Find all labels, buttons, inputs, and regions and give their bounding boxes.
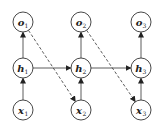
- node-o1: o1: [13, 12, 33, 32]
- node-subscript: 1: [25, 110, 29, 117]
- node-label: h: [17, 63, 24, 74]
- node-subscript: 3: [143, 68, 147, 75]
- node-h2: h2: [71, 58, 91, 78]
- node-subscript: 2: [83, 110, 87, 117]
- node-subscript: 1: [25, 68, 29, 75]
- node-x2: x2: [71, 100, 91, 120]
- node-subscript: 2: [83, 22, 87, 29]
- edge-o2-x3-arrow: [87, 30, 135, 101]
- nodes: o1o2o3h1h2h3x1x2x3: [13, 12, 151, 120]
- node-subscript: 1: [25, 22, 29, 29]
- edge-o1-x2-arrow: [29, 30, 76, 101]
- node-o2: o2: [71, 12, 91, 32]
- node-subscript: 3: [143, 110, 147, 117]
- node-label: h: [135, 63, 142, 74]
- node-label: h: [75, 63, 82, 74]
- node-subscript: 3: [143, 22, 147, 29]
- rnn-diagram: o1o2o3h1h2h3x1x2x3: [0, 0, 161, 129]
- node-x3: x3: [131, 100, 151, 120]
- node-o3: o3: [131, 12, 151, 32]
- node-x1: x1: [13, 100, 33, 120]
- node-h1: h1: [13, 58, 33, 78]
- node-subscript: 2: [83, 68, 87, 75]
- node-h3: h3: [131, 58, 151, 78]
